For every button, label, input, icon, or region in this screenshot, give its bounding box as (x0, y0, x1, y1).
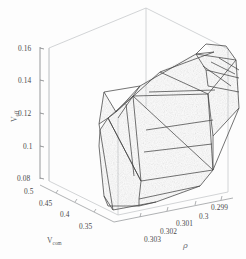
z-tick-label: 0.12 (18, 109, 31, 118)
y-tick-label: 0.301 (176, 219, 193, 228)
x-tick-label: 0.4 (60, 210, 70, 219)
z-axis-title-subscript: eff (14, 111, 20, 117)
x-tick-label: 0.45 (39, 199, 52, 208)
y-tick-label: 0.299 (211, 203, 228, 212)
z-tick-label: 0.16 (18, 44, 31, 53)
z-tick-label: 0.08 (17, 174, 30, 183)
x-axis-title-subscript: com (52, 240, 61, 246)
plot-svg (0, 0, 246, 259)
y-tick-label: 0.3 (199, 212, 209, 221)
z-axis-title-text: V (10, 117, 19, 122)
y-axis-title: ρ (183, 241, 188, 250)
figure-canvas: 0.16 0.14 0.12 0.1 0.08 Veff 0.5 0.45 0.… (0, 0, 246, 259)
y-tick-label: 0.303 (144, 235, 161, 244)
x-axis-title: Vcom (47, 236, 62, 246)
y-tick-label: 0.302 (160, 227, 177, 236)
z-tick-label: 0.14 (18, 76, 31, 85)
z-axis-title: Veff (10, 111, 20, 122)
x-tick-label: 0.35 (79, 222, 92, 231)
z-tick-label: 0.1 (23, 142, 33, 151)
z-axis (40, 47, 44, 179)
x-tick-label: 0.5 (24, 187, 34, 196)
